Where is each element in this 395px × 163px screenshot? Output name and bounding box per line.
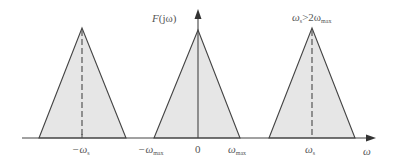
condition-left: ω [292, 11, 300, 23]
sampling-condition-label: ωs>2ωmax [292, 11, 331, 24]
x-axis-label: ω [363, 145, 371, 157]
tick-text: ω [305, 143, 313, 155]
y-axis-arrow-icon [195, 9, 202, 19]
tick-text: −ω [138, 143, 153, 155]
tick-text: 0 [195, 143, 201, 155]
y-axis-label-main: F [152, 12, 159, 24]
y-axis-label-paren: (jω) [159, 12, 177, 24]
tick-label-ws: ωs [305, 143, 315, 156]
condition-op: >2ω [302, 11, 321, 23]
tick-sub: s [313, 150, 315, 156]
tick-sub: max [153, 150, 163, 156]
tick-label-neg-ws: −ωs [72, 143, 90, 156]
x-axis-label-text: ω [363, 145, 371, 157]
tick-text: −ω [72, 143, 87, 155]
condition-right-sub: max [321, 18, 331, 24]
spectrum-baseband [154, 30, 240, 138]
y-axis-label: F(jω) [152, 12, 176, 24]
tick-label-neg-wmax: −ωmax [138, 143, 164, 156]
spectrum-diagram [0, 0, 395, 163]
x-axis-arrow-icon [366, 135, 376, 142]
tick-label-zero: 0 [195, 143, 201, 155]
tick-label-wmax: ωmax [228, 143, 246, 156]
tick-text: ω [228, 143, 236, 155]
tick-sub: s [87, 150, 89, 156]
tick-sub: max [236, 150, 246, 156]
